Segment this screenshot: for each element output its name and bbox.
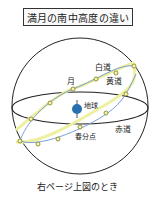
label-moon: 月 [67, 77, 75, 86]
label-equator: 赤道 [115, 124, 131, 134]
earth-icon [72, 104, 82, 114]
label-vernal-equinox: 春分点 [75, 132, 96, 141]
label-earth: 地球 [84, 101, 98, 110]
figure-caption: 右ページ上図のとき [0, 180, 154, 193]
label-moon-path: 白道 [95, 62, 111, 72]
celestial-sphere-diagram: 月 白道 黄道 地球 赤道 春分点 [0, 0, 154, 206]
label-ecliptic: 黄道 [106, 76, 122, 86]
